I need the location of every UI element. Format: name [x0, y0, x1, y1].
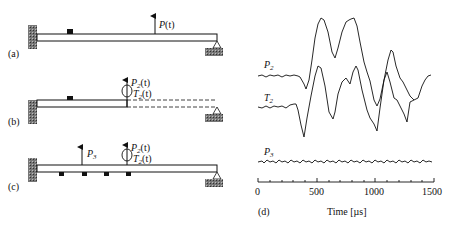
trace-p3: [258, 160, 432, 163]
trace-label-p3: P3: [264, 147, 274, 159]
tick-label-500: 500: [309, 187, 324, 197]
beam-c: [28, 145, 223, 187]
force-label-a-p: P(t): [159, 20, 175, 30]
figure-graphics: [0, 0, 457, 225]
beam-a: [28, 16, 223, 56]
force-label-c-p3: P3: [87, 149, 97, 161]
wall-support-icon: [28, 25, 37, 49]
x-axis-label: Time [µs]: [327, 207, 367, 217]
trace-label-p2: P2: [264, 60, 274, 72]
trace-label-t2: T2: [264, 93, 273, 105]
sensor-icon: [67, 29, 73, 34]
pin-support-icon: [213, 41, 221, 48]
tick-label-0: 0: [255, 187, 260, 197]
beam-b: [28, 80, 223, 124]
sensor-icon: [67, 96, 73, 100]
torque-label-b-t2: T2(t): [133, 89, 152, 101]
torque-label-c-t2: T2(t): [133, 154, 152, 166]
panel-label-b: (b): [8, 117, 20, 127]
panel-label-d: (d): [258, 207, 270, 217]
panel-label-a: (a): [8, 49, 19, 59]
tick-label-1000: 1000: [364, 187, 384, 197]
signal-plot: [258, 18, 434, 182]
tick-label-1500: 1500: [422, 187, 442, 197]
trace-p2: [258, 18, 431, 106]
panel-label-c: (c): [8, 182, 19, 192]
